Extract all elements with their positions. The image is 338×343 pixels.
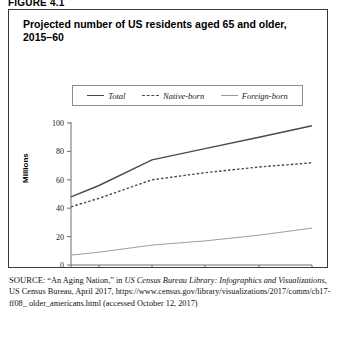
y-tick-label: 60 [56, 176, 64, 185]
series-line-foreign-born [71, 228, 312, 255]
axes-group [71, 122, 312, 265]
series-line-total [71, 126, 312, 197]
legend-label-foreign-born: Foreign-born [242, 91, 288, 101]
legend-label-total: Total [108, 91, 125, 101]
source-note: SOURCE: “An Aging Nation,” in US Census … [9, 275, 331, 309]
legend-swatch-total-icon [87, 95, 104, 96]
y-tick-label: 0 [60, 261, 64, 267]
source-text-a: “An Aging Nation,” in [45, 276, 124, 285]
legend-item-native-born: Native-born [142, 91, 204, 101]
legend-label-native-born: Native-born [163, 91, 204, 101]
y-ticks-group: 020406080100 [52, 119, 71, 267]
y-tick-label: 20 [56, 233, 64, 242]
source-italic-1: US Census Bureau Library: [125, 276, 218, 285]
plot-area: 020406080100 201520202030204020502060 Mi… [9, 10, 329, 267]
y-axis-title: Millions [21, 153, 30, 183]
legend-item-total: Total [87, 91, 125, 101]
legend-item-foreign-born: Foreign-born [221, 91, 288, 101]
y-tick-label: 100 [52, 119, 64, 128]
chart-legend: Total Native-born Foreign-born [72, 85, 303, 106]
figure-box: Projected number of US residents aged 65… [8, 9, 328, 268]
series-group [71, 126, 312, 255]
source-accessed: older_americans.html (accessed October 1… [29, 299, 198, 308]
line-chart-svg: 020406080100 201520202030204020502060 [9, 10, 329, 267]
figure-label: FIGURE 4.1 [8, 0, 64, 8]
y-tick-label: 80 [56, 147, 64, 156]
legend-swatch-foreign-born-icon [221, 95, 238, 96]
y-tick-label: 40 [56, 204, 64, 213]
source-label: SOURCE: [9, 275, 45, 285]
source-italic-2: Infographics and Visualizations [219, 276, 324, 285]
legend-swatch-native-born-icon [142, 95, 159, 96]
series-line-native-born [71, 163, 312, 207]
